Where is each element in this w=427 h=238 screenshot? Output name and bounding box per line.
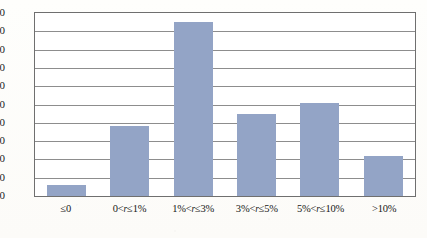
y-axis-tick-label: 90 [0,25,9,36]
bar-slot [98,13,161,196]
bar [237,114,276,196]
bar-chart: 1009080706050403020100 ≤00<r≤1%1%<r≤3%3%… [0,0,427,238]
y-axis-tick-text: 80 [0,43,9,55]
y-axis-tick-label: 70 [0,62,9,73]
bar-series [35,13,415,196]
y-axis-tick-text: 0 [0,189,9,201]
bar [174,22,213,196]
y-axis-tick-label: 80 [0,44,9,55]
category-suffix: ≤5% [259,203,278,214]
category-prefix: 5%< [297,203,316,214]
x-axis-category-labels: ≤00<r≤1%1%<r≤3%3%<r≤5%5%<r≤10%>10% [34,203,416,215]
bar [110,126,149,196]
y-axis-tick-text: 20 [0,152,9,164]
category-prefix: 1%< [172,203,191,214]
y-axis-tick-text: 50 [0,98,9,110]
category-suffix: ≤3% [195,203,214,214]
x-axis-category-label: 3%<r≤5% [225,203,289,215]
bar [300,103,339,196]
x-axis-category-label: 0<r≤1% [98,203,162,215]
x-axis-category-label: >10% [352,203,416,215]
x-axis-category-label: 1%<r≤3% [161,203,225,215]
y-axis-tick-text: 10 [0,171,9,183]
bar-slot [352,13,415,196]
y-axis-tick-label: 30 [0,135,9,146]
y-axis-tick-label: 100 [0,7,9,18]
y-axis-tick-text: 60 [0,79,9,91]
y-axis-tick-label: 10 [0,172,9,183]
y-axis-tick-label: 0 [0,190,9,201]
category-prefix: 0< [113,203,124,214]
y-axis-tick-label: 20 [0,153,9,164]
bar-slot [225,13,288,196]
y-axis-tick-text: 40 [0,116,9,128]
y-axis-tick-text: 70 [0,61,9,73]
y-axis-tick-text: 90 [0,24,9,36]
bar-slot [35,13,98,196]
y-axis-tick-label: 60 [0,80,9,91]
bar-slot [162,13,225,196]
x-axis-category-label: 5%<r≤10% [289,203,353,215]
x-axis-category-label: ≤0 [34,203,98,215]
category-suffix: ≤10% [320,203,344,214]
category-suffix: ≤1% [127,203,146,214]
y-axis-tick-text: 30 [0,134,9,146]
bar [364,156,403,196]
y-axis-tick-label: 50 [0,99,9,110]
category-prefix: 3%< [236,203,255,214]
bar-slot [288,13,351,196]
y-axis-tick-text: 100 [0,6,9,18]
y-axis-tick-label: 40 [0,117,9,128]
bar [47,185,86,196]
